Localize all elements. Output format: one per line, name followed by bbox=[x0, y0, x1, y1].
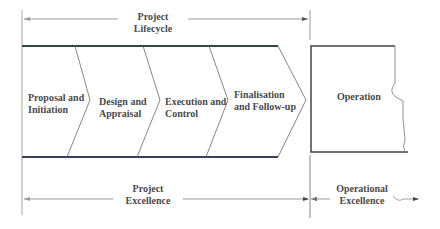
arrow-right-icon bbox=[413, 197, 419, 201]
phase-label-line: Execution and bbox=[165, 96, 226, 108]
phase-proposal-initiation: Proposal and Initiation bbox=[28, 92, 84, 116]
project-excellence-label: Project Excellence bbox=[113, 183, 183, 207]
phase-label-line: Control bbox=[165, 108, 226, 120]
phase-finalisation-followup: Finalisation and Follow-up bbox=[234, 89, 296, 113]
arrow-right-icon bbox=[302, 17, 308, 21]
arrow-left-icon bbox=[24, 197, 30, 201]
operation-label: Operation bbox=[337, 91, 381, 103]
label-line: Project bbox=[116, 183, 180, 195]
phase-label-line: Finalisation bbox=[234, 89, 296, 101]
phase-design-appraisal: Design and Appraisal bbox=[99, 96, 147, 120]
arrow-left-icon bbox=[24, 17, 30, 21]
phase-label-line: Initiation bbox=[28, 104, 84, 116]
label-line: Excellence bbox=[334, 195, 390, 207]
project-lifecycle-label: Project Lifecycle bbox=[118, 11, 188, 35]
operational-excellence-label: Operational Excellence bbox=[331, 183, 393, 207]
label-line: Operational bbox=[334, 183, 390, 195]
phase-execution-control: Execution and Control bbox=[165, 96, 226, 120]
label-line: Lifecycle bbox=[121, 23, 185, 35]
label-line: Excellence bbox=[116, 195, 180, 207]
phase-label-line: and Follow-up bbox=[234, 101, 296, 113]
phase-label-line: Proposal and bbox=[28, 92, 84, 104]
label-line: Project bbox=[121, 11, 185, 23]
arrow-right-icon bbox=[303, 197, 309, 201]
phase-label-line: Design and bbox=[99, 96, 147, 108]
phase-label-line: Appraisal bbox=[99, 108, 147, 120]
